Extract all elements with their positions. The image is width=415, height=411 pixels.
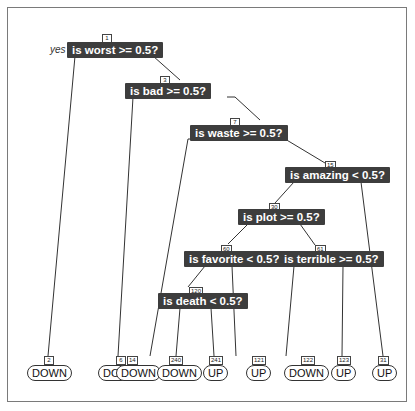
leaf-node[interactable]: UP [331, 365, 356, 381]
leaf-id: 31 [378, 356, 389, 365]
leaf-node[interactable]: DOWN [27, 365, 72, 381]
yes-label: yes [50, 44, 66, 55]
leaf-node[interactable]: DOWN [157, 365, 202, 381]
leaf-node[interactable]: UP [246, 365, 271, 381]
leaf-id: 240 [169, 356, 183, 365]
leaf-id: 123 [337, 356, 351, 365]
leaf-node[interactable]: UP [203, 365, 228, 381]
leaf-node[interactable]: UP [372, 365, 397, 381]
leaf-id: 14 [127, 356, 138, 365]
leaf-id: 122 [301, 356, 315, 365]
split-node-amazing[interactable]: is amazing < 0.5? [285, 167, 390, 183]
split-node-terrible[interactable]: is terrible >= 0.5? [279, 251, 384, 267]
split-node-death[interactable]: is death < 0.5? [158, 293, 248, 309]
split-node-plot[interactable]: is plot >= 0.5? [238, 209, 325, 225]
leaf-id: 2 [44, 356, 54, 365]
split-node-worst[interactable]: is worst >= 0.5? [67, 42, 163, 58]
leaf-id: 6 [116, 356, 126, 365]
leaf-id: 121 [252, 356, 266, 365]
leaf-id: 241 [209, 356, 223, 365]
leaf-node[interactable]: DOWN [116, 365, 161, 381]
split-node-bad[interactable]: is bad >= 0.5? [125, 83, 211, 99]
split-node-favorite[interactable]: is favorite < 0.5? [184, 251, 284, 267]
split-node-waste[interactable]: is waste >= 0.5? [190, 125, 288, 141]
tree-edges [0, 0, 415, 411]
leaf-node[interactable]: DOWN [284, 365, 329, 381]
